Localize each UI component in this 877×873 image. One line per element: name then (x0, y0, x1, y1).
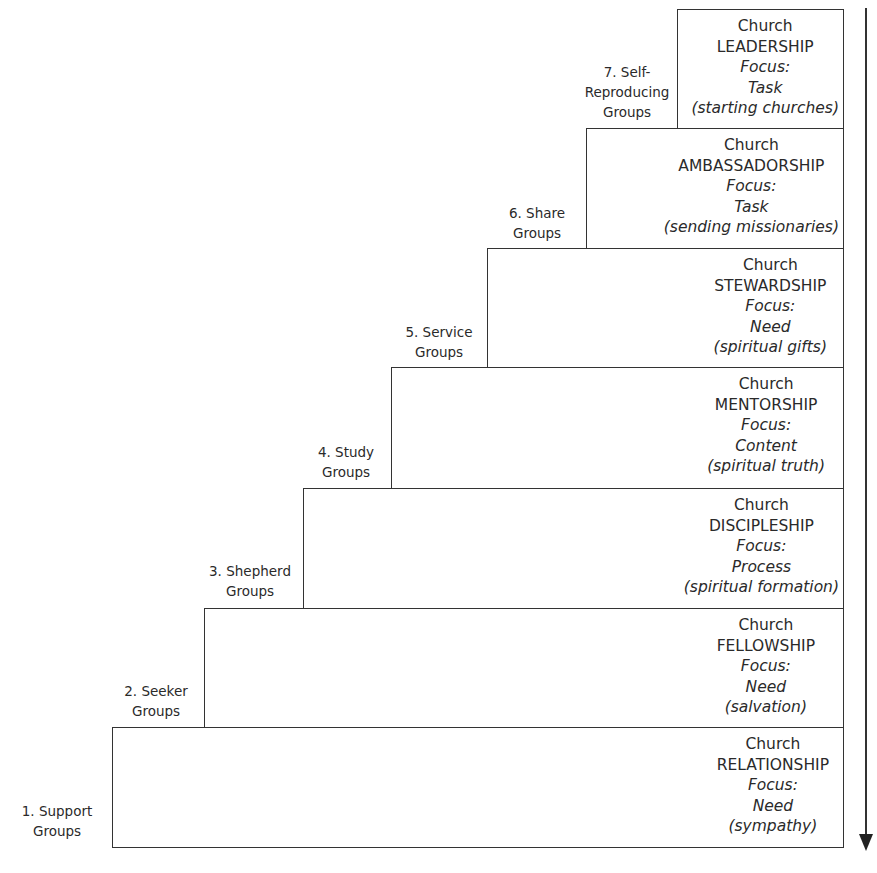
focus-label: Focus: (707, 415, 825, 436)
church-label: Church (684, 495, 839, 516)
label-line: Groups (6, 821, 108, 841)
focus-label: Focus: (714, 296, 827, 317)
church-label: Church (717, 615, 815, 636)
label-line: 1. Support (6, 801, 108, 821)
focus-value: Need (717, 677, 815, 698)
level-title: AMBASSADORSHIP (664, 156, 839, 177)
level-title: STEWARDSHIP (714, 276, 827, 297)
label-line: 5. Service (394, 322, 484, 342)
focus-value: Need (717, 796, 829, 817)
focus-detail: (sympathy) (717, 816, 829, 837)
level-title: DISCIPLESHIP (684, 516, 839, 537)
level-7-text: Church LEADERSHIP Focus: Task (starting … (691, 16, 839, 119)
level-6-box: Church AMBASSADORSHIP Focus: Task (sendi… (586, 128, 844, 249)
label-line: Groups (580, 102, 674, 122)
level-2-label: 2. Seeker Groups (112, 681, 200, 721)
church-label: Church (664, 135, 839, 156)
focus-detail: (spiritual gifts) (714, 337, 827, 358)
label-line: 6. Share (492, 203, 582, 223)
level-title: FELLOWSHIP (717, 636, 815, 657)
label-line: Groups (200, 581, 300, 601)
level-3-label: 3. Shepherd Groups (200, 561, 300, 601)
level-2-text: Church FELLOWSHIP Focus: Need (salvation… (717, 615, 815, 718)
level-1-label: 1. Support Groups (6, 801, 108, 841)
down-arrow-line (865, 8, 867, 836)
level-3-box: Church DISCIPLESHIP Focus: Process (spir… (303, 488, 844, 609)
church-label: Church (691, 16, 839, 37)
level-3-text: Church DISCIPLESHIP Focus: Process (spir… (684, 495, 839, 598)
focus-label: Focus: (664, 176, 839, 197)
level-4-label: 4. Study Groups (305, 442, 387, 482)
focus-value: Process (684, 557, 839, 578)
focus-detail: (sending missionaries) (664, 217, 839, 238)
level-7-label: 7. Self- Reproducing Groups (580, 62, 674, 122)
label-line: Groups (305, 462, 387, 482)
focus-value: Content (707, 436, 825, 457)
focus-detail: (spiritual truth) (707, 456, 825, 477)
focus-detail: (salvation) (717, 697, 815, 718)
focus-value: Task (691, 78, 839, 99)
church-label: Church (707, 374, 825, 395)
church-label: Church (714, 255, 827, 276)
level-5-box: Church STEWARDSHIP Focus: Need (spiritua… (487, 248, 844, 369)
level-6-text: Church AMBASSADORSHIP Focus: Task (sendi… (664, 135, 839, 238)
focus-label: Focus: (691, 57, 839, 78)
church-label: Church (717, 734, 829, 755)
label-line: Reproducing (580, 82, 674, 102)
level-1-text: Church RELATIONSHIP Focus: Need (sympath… (717, 734, 829, 837)
focus-label: Focus: (717, 775, 829, 796)
focus-value: Task (664, 197, 839, 218)
focus-detail: (spiritual formation) (684, 577, 839, 598)
focus-label: Focus: (684, 536, 839, 557)
level-6-label: 6. Share Groups (492, 203, 582, 243)
level-4-box: Church MENTORSHIP Focus: Content (spirit… (391, 367, 844, 489)
label-line: Groups (112, 701, 200, 721)
down-arrow-icon (859, 834, 873, 851)
level-1-box: Church RELATIONSHIP Focus: Need (sympath… (112, 727, 844, 848)
level-title: MENTORSHIP (707, 395, 825, 416)
level-4-text: Church MENTORSHIP Focus: Content (spirit… (707, 374, 825, 477)
focus-detail: (starting churches) (691, 98, 839, 119)
label-line: Groups (394, 342, 484, 362)
level-7-box: Church LEADERSHIP Focus: Task (starting … (677, 9, 844, 129)
label-line: 4. Study (305, 442, 387, 462)
focus-label: Focus: (717, 656, 815, 677)
level-5-label: 5. Service Groups (394, 322, 484, 362)
label-line: 3. Shepherd (200, 561, 300, 581)
label-line: 7. Self- (580, 62, 674, 82)
focus-value: Need (714, 317, 827, 338)
level-title: LEADERSHIP (691, 37, 839, 58)
level-2-box: Church FELLOWSHIP Focus: Need (salvation… (204, 608, 844, 729)
label-line: 2. Seeker (112, 681, 200, 701)
label-line: Groups (492, 223, 582, 243)
level-title: RELATIONSHIP (717, 755, 829, 776)
level-5-text: Church STEWARDSHIP Focus: Need (spiritua… (714, 255, 827, 358)
